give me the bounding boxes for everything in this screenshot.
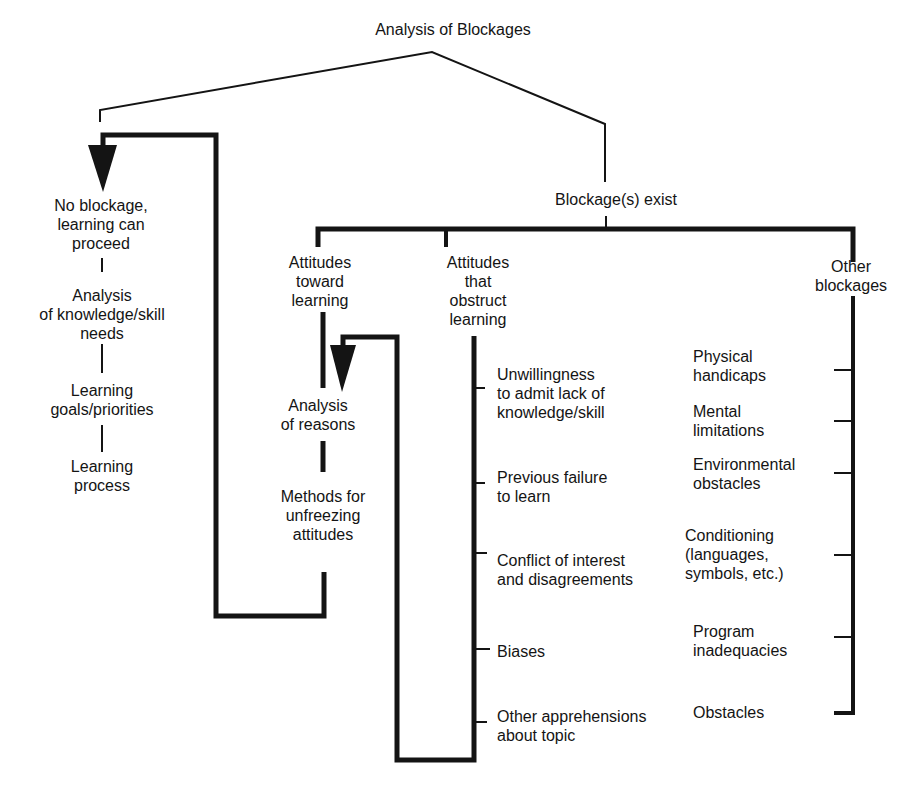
node-attitudes-toward-learning: Attitudes toward learning	[289, 253, 351, 310]
other-item-mental-limitations: Mental limitations	[693, 402, 764, 440]
node-attitudes-obstruct-learning: Attitudes that obstruct learning	[447, 253, 509, 329]
node-learning-goals: Learning goals/priorities	[50, 381, 153, 419]
node-methods-unfreezing: Methods for unfreezing attitudes	[281, 487, 365, 544]
node-learning-process: Learning process	[71, 457, 133, 495]
obstruct-item-other-apprehensions: Other apprehensions about topic	[497, 707, 646, 745]
other-item-environmental-obstacles: Environmental obstacles	[693, 455, 795, 493]
arrow-down-icon	[88, 145, 117, 192]
diagram-title: Analysis of Blockages	[375, 20, 531, 39]
obstruct-item-unwillingness: Unwillingness to admit lack of knowledge…	[497, 365, 605, 422]
other-item-physical-handicaps: Physical handicaps	[693, 347, 766, 385]
node-analysis-of-reasons: Analysis of reasons	[281, 396, 356, 434]
arrow-down-icon	[330, 345, 356, 392]
root-bracket-line	[100, 52, 605, 182]
node-no-blockage: No blockage, learning can proceed	[54, 196, 147, 253]
other-item-obstacles: Obstacles	[693, 703, 764, 722]
other-item-program-inadequacies: Program inadequacies	[693, 622, 787, 660]
obstruct-item-previous-failure: Previous failure to learn	[497, 468, 607, 506]
obstruct-item-biases: Biases	[497, 642, 545, 661]
node-analysis-knowledge-needs: Analysis of knowledge/skill needs	[39, 286, 164, 343]
branch-bar-line	[318, 229, 853, 262]
node-blockages-exist: Blockage(s) exist	[555, 190, 677, 209]
obstruct-item-conflict: Conflict of interest and disagreements	[497, 551, 633, 589]
other-item-conditioning: Conditioning (languages, symbols, etc.)	[685, 526, 784, 583]
node-other-blockages: Other blockages	[815, 257, 887, 295]
other-blockages-line	[834, 296, 853, 713]
feedback-loop-to-reasons-line	[343, 336, 474, 760]
